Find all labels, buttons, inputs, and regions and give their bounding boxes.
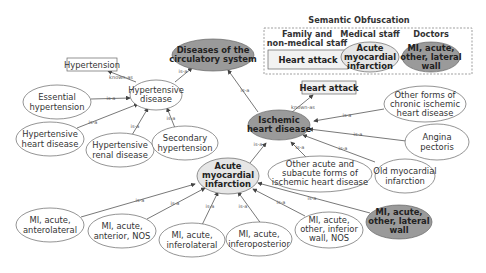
edge-label: is-a [136,197,145,203]
node-label: circulatory system [169,54,257,64]
node-label: infarction [205,179,251,189]
edge-label: is-a [171,200,180,206]
edge-label: is-a [107,95,116,101]
node-angina: Angina pectoris [405,124,469,160]
legend-heart-attack-label: Heart attack [278,55,338,65]
node-label: anterior, NOS [94,231,151,241]
node-label: ischemic heart disease [272,177,368,187]
legend-header-family-2: non-medical staff [267,38,348,48]
node-old-mi: Old myocardial infarction [373,159,436,193]
node-label: Heart attack [299,83,359,93]
node-label: Hypertension [64,60,120,70]
node-label: wall [389,225,408,235]
node-label: wall, NOS [309,233,349,243]
node-label: heart disease [247,124,312,134]
node-label: hypertension [157,143,212,153]
edge-label: is-a [296,144,305,150]
node-hypertensive-heart: Hypertensive heart disease [16,122,84,156]
edge-label: is-a [179,68,188,74]
legend-title: Semantic Obfuscation [308,15,410,25]
edge-label: is-a [354,131,363,137]
node-mi-anterolateral: MI, acute, anterolateral [16,208,84,242]
edge-label: is-a [308,195,317,201]
node-label: Hypertensive [92,140,148,150]
node-label: Hypertensive [22,129,78,139]
node-label: MI, acute, [101,221,142,231]
node-mi-lateral: MI, acute, other, lateral wall [366,205,432,239]
edge-label: is-a [239,203,248,209]
edge-label: is-a [277,199,286,205]
legend-acute-mi-line3: infarction [347,61,393,71]
node-label: MI, acute, [171,230,212,240]
edge-label: is-a [339,145,348,151]
edge-label: is-a [131,123,140,129]
node-ischemic-heart: Ischemic heart disease [247,110,312,140]
node-hypertensive-renal: Hypertensive renal disease [86,133,154,167]
edge-label: known-as [291,104,315,110]
node-label: Essential [38,92,76,102]
node-label: MI, acute, [238,229,279,239]
edge-label: is-a [343,112,352,118]
legend-header-medical: Medical staff [340,29,400,39]
node-diseases-circulatory: Diseases of the circulatory system [169,39,257,71]
edge-label: is-a [254,141,263,147]
node-hypertension-box: Hypertension [64,58,120,71]
edge-label: is-a [206,203,215,209]
node-label: Old myocardial [373,166,436,176]
node-label: disease [140,94,172,104]
node-heart-attack-box: Heart attack [299,81,359,94]
node-acute-mi: Acute myocardial infarction [197,158,259,194]
node-label: heart disease [22,139,79,149]
node-label: heart disease [397,108,454,118]
node-mi-anterior: MI, acute, anterior, NOS [88,214,156,248]
node-other-acute-subacute: Other acute and subacute forms of ischem… [268,156,372,192]
node-label: hypertension [29,102,84,112]
node-mi-inferolateral: MI, acute, inferolateral [159,223,225,257]
node-essential-hypertension: Essential hypertension [23,85,91,119]
node-label: infarction [385,176,425,186]
edge-label: is-a [167,115,176,121]
edge-label: is-a [89,119,98,125]
node-other-chronic: Other forms of chronic ischemic heart di… [384,86,466,122]
node-label: inferoposterior [228,239,290,249]
edge-label: is-a [241,87,250,93]
legend-header-doctors: Doctors [413,29,449,39]
node-hypertensive-disease: Hypertensive disease [128,80,184,110]
node-label: MI, acute, [29,215,70,225]
node-mi-inferior: MI, acute, other, inferior wall, NOS [295,212,363,248]
node-label: renal disease [92,150,148,160]
node-label: Secondary [163,133,207,143]
node-label: inferolateral [167,240,218,250]
concept-diagram: Semantic Obfuscation Family and non-medi… [0,0,486,273]
edge-label: known-as [109,74,133,80]
node-label: anterolateral [23,225,77,235]
node-secondary-hypertension: Secondary hypertension [152,126,218,160]
legend-mi-lateral-line3: wall [421,61,440,71]
node-label: pectoris [420,142,454,152]
node-label: Angina [422,132,451,142]
node-mi-inferoposterior: MI, acute, inferoposterior [226,222,292,256]
